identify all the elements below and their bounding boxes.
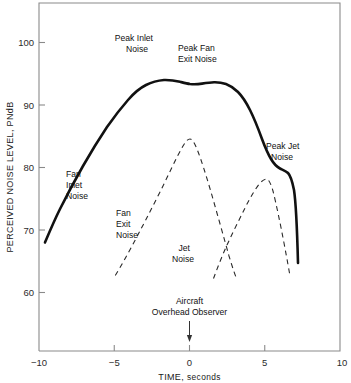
- x-axis-ticks: [114, 345, 265, 351]
- annotation-fan-exit-noise: Fan Exit Noise: [116, 208, 138, 240]
- x-tick-label-10: 10: [337, 357, 348, 368]
- jet-noise-curve: [214, 179, 291, 279]
- annotation-peak-jet-noise: Peak Jet Noise: [266, 141, 300, 162]
- total-noise-curve: [45, 80, 298, 263]
- y-axis-ticks: [39, 43, 45, 293]
- observer-arrow-head-icon: [187, 335, 192, 342]
- observer-line1: Aircraft: [176, 296, 204, 306]
- fan-inlet-noise-line2: Inlet: [66, 180, 83, 190]
- observer-line2: Overhead Observer: [152, 307, 228, 317]
- peak-inlet-noise-line2: Noise: [126, 44, 148, 54]
- fan-inlet-noise-line1: Fan: [66, 169, 81, 179]
- y-tick-label-60: 60: [23, 287, 34, 298]
- jet-noise-line2: Noise: [172, 254, 194, 264]
- x-axis-title: TIME,seconds: [158, 372, 220, 382]
- peak-jet-noise-line2: Noise: [271, 152, 293, 162]
- x-axis-title-unit: seconds: [187, 372, 221, 382]
- chart-svg: 100 90 80 70 60 −10 −5 0 5 10 TIME,secon…: [0, 0, 351, 383]
- annotation-jet-noise: Jet Noise: [172, 243, 194, 264]
- y-axis-tick-labels: 100 90 80 70 60: [18, 37, 34, 298]
- y-axis-title: PERCEIVED NOISE LEVEL, PNdB: [5, 101, 15, 252]
- y-tick-label-80: 80: [23, 162, 34, 173]
- annotation-peak-fan-exit-noise: Peak Fan Exit Noise: [178, 43, 217, 64]
- fan-inlet-noise-line3: Noise: [66, 191, 88, 201]
- fan-exit-noise-line1: Fan: [116, 208, 131, 218]
- x-axis-title-main: TIME,: [158, 372, 184, 382]
- x-tick-label-minus5: −5: [109, 357, 120, 368]
- peak-fan-exit-noise-line1: Peak Fan: [178, 43, 215, 53]
- y-tick-label-70: 70: [23, 225, 34, 236]
- x-tick-label-minus10: −10: [31, 357, 47, 368]
- x-tick-label-5: 5: [262, 357, 267, 368]
- fan-exit-noise-line3: Noise: [116, 230, 138, 240]
- annotation-peak-inlet-noise: Peak Inlet Noise: [115, 33, 154, 54]
- fan-exit-noise-line2: Exit: [116, 219, 131, 229]
- annotation-fan-inlet-noise: Fan Inlet Noise: [66, 169, 88, 201]
- annotation-aircraft-overhead-observer: Aircraft Overhead Observer: [152, 296, 228, 342]
- x-tick-label-0: 0: [187, 357, 192, 368]
- x-axis-tick-labels: −10 −5 0 5 10: [31, 357, 347, 368]
- peak-inlet-noise-line1: Peak Inlet: [115, 33, 154, 43]
- y-tick-label-100: 100: [18, 37, 34, 48]
- peak-fan-exit-noise-line2: Exit Noise: [178, 54, 217, 64]
- noise-level-chart-figure: 100 90 80 70 60 −10 −5 0 5 10 TIME,secon…: [0, 0, 351, 383]
- peak-jet-noise-line1: Peak Jet: [266, 141, 300, 151]
- jet-noise-line1: Jet: [179, 243, 191, 253]
- y-tick-label-90: 90: [23, 100, 34, 111]
